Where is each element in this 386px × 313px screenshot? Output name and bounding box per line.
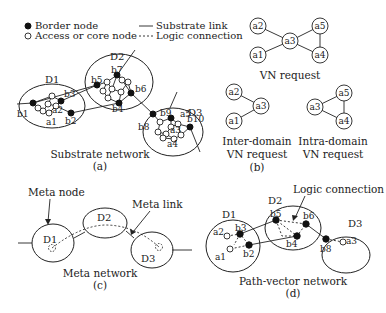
svg-text:b7: b7 [111,65,123,75]
caption-meta-network: Meta network [63,267,138,279]
legend: Border node Access or core node Substrat… [25,20,243,41]
svg-text:b4: b4 [112,104,124,114]
svg-text:a1: a1 [252,50,263,60]
node-b6 [128,90,134,96]
svg-text:b2: b2 [243,249,255,259]
access-node-legend-icon [25,33,31,39]
pv-node-b8 [323,236,329,242]
panel-c-meta-network: Meta node Meta link D1 D2 D3 Meta networ… [18,186,192,291]
node-b1 [30,100,36,106]
svg-text:b5: b5 [270,209,282,219]
svg-text:b5: b5 [91,75,103,85]
svg-text:a3: a3 [170,125,181,135]
logic-connection-callout: Logic connection [293,183,384,195]
pv-node-b6 [303,221,309,227]
logic-connection-arrow-icon [292,215,298,221]
meta-link-label: Meta link [132,198,183,210]
meta-logic-path [52,225,159,248]
svg-text:a2: a2 [228,87,239,97]
svg-text:D2: D2 [268,195,282,206]
svg-text:b3: b3 [235,223,247,233]
caption-inter-domain-line1: Inter-domain [222,135,292,147]
node-b10 [187,124,193,130]
svg-text:a2: a2 [213,227,224,237]
pv-node-b2 [246,242,252,248]
svg-text:D2: D2 [97,212,111,223]
domain-label-d1: D1 [45,74,59,85]
pv-node-a2 [224,233,230,239]
node-b8 [150,111,156,117]
svg-text:a1: a1 [215,252,226,262]
svg-text:a3: a3 [309,102,320,112]
legend-logic-connection: Logic connection [156,30,243,41]
caption-tag-c: (c) [93,279,107,291]
caption-intra-domain-line2: VN request [302,148,364,160]
svg-text:a4: a4 [314,50,325,60]
panel-b-vn-requests: a2 a1 a3 a5 a4 VN request a2 a3 a1 Inter… [222,18,368,173]
vn-request-graph: a2 a1 a3 a5 a4 [250,18,328,63]
svg-text:a2: a2 [252,21,263,31]
border-node-legend-icon [25,23,31,29]
svg-text:b8: b8 [320,244,332,254]
caption-inter-domain-line2: VN request [226,148,288,160]
svg-text:a5: a5 [314,21,325,31]
svg-text:D3: D3 [348,218,362,229]
caption-vn-request: VN request [259,69,321,81]
caption-path-vector-network: Path-vector network [239,275,348,287]
svg-text:D1: D1 [43,234,57,245]
svg-text:b2: b2 [65,116,77,126]
svg-text:b8: b8 [138,122,150,132]
svg-text:a4: a4 [338,116,349,126]
svg-text:b6: b6 [303,211,315,221]
caption-tag-b: (b) [250,161,265,173]
svg-text:b4: b4 [286,239,298,249]
svg-text:a3: a3 [346,236,357,246]
svg-text:a1: a1 [228,116,239,126]
svg-text:a5: a5 [180,109,191,119]
svg-text:a3: a3 [255,101,266,111]
inter-domain-vn-graph: a2 a3 a1 [226,84,269,129]
svg-text:b1: b1 [17,109,29,119]
caption-tag-a: (a) [93,160,107,172]
svg-text:D3: D3 [141,253,155,264]
vn-mapping-diagram: Border node Access or core node Substrat… [0,0,386,313]
svg-text:a2: a2 [52,105,63,115]
legend-access-node: Access or core node [34,30,137,41]
domain-label-d2: D2 [110,51,124,62]
panel-a-substrate-network: D1 D2 D3 b1 b2 b3 a1 a2 [17,50,204,172]
svg-text:a4: a4 [167,139,178,149]
caption-tag-d: (d) [286,287,301,299]
svg-text:a5: a5 [338,88,349,98]
caption-substrate-network: Substrate network [50,148,150,160]
intra-domain-vn-graph: a3 a5 a4 [307,85,352,129]
svg-text:b3: b3 [64,89,76,99]
panel-d-path-vector-network: Logic connection D1 D2 D3 a1 a2 b2 b3 b4… [206,183,384,299]
pv-node-a1 [227,246,233,252]
svg-text:b6: b6 [135,84,147,94]
meta-node-label: Meta node [28,186,85,198]
svg-text:b9: b9 [160,108,172,118]
svg-text:a1: a1 [46,117,57,127]
caption-intra-domain-line1: Intra-domain [298,135,368,147]
svg-text:a3: a3 [284,36,295,46]
svg-text:D1: D1 [222,209,236,220]
